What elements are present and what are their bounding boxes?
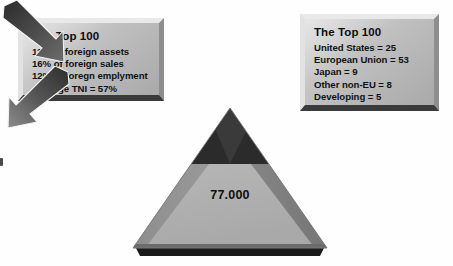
right-box-line-5: Developing = 5 [314, 91, 426, 103]
left-box-line-4: Average TNI = 57% [32, 83, 151, 95]
pyramid-base-shadow [136, 248, 324, 256]
left-box-line-1: 11% of foreign assets [32, 46, 151, 58]
right-box-line-4: Other non-EU = 8 [314, 79, 426, 91]
left-info-box: The Top 100 11% of foreign assets 16% of… [18, 18, 164, 101]
pyramid-shape: 77.000 [128, 106, 332, 258]
diagram-canvas: The Top 100 11% of foreign assets 16% of… [0, 0, 453, 266]
pyramid-inner-base-rim [128, 244, 332, 248]
left-box-title: The Top 100 [32, 30, 151, 43]
pyramid-svg [128, 106, 332, 258]
right-info-box: The Top 100 United States = 25 European … [300, 14, 439, 111]
right-box-line-3: Japan = 9 [314, 66, 426, 78]
left-box-line-2: 16% of foreign sales [32, 58, 151, 70]
right-box-line-1: United States = 25 [314, 42, 426, 54]
left-box-line-3: 12% of foregn emplyment [32, 70, 151, 82]
right-box-line-2: European Union = 53 [314, 54, 426, 66]
scan-artifact [0, 158, 3, 166]
right-box-title: The Top 100 [314, 26, 426, 39]
